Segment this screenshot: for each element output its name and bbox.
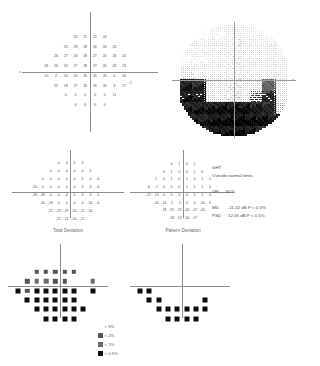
greyscale-dot — [257, 78, 258, 79]
greyscale-dot — [216, 85, 217, 86]
greyscale-dot — [220, 37, 221, 38]
greyscale-dot — [191, 64, 192, 65]
probability-cell — [167, 289, 170, 292]
greyscale-dot — [204, 74, 205, 75]
greyscale-dot — [214, 37, 215, 38]
value-cell: -3 — [80, 162, 83, 166]
value-cell: -3 — [88, 186, 91, 190]
legend-symbol-p1 — [98, 342, 103, 347]
greyscale-dot — [231, 97, 232, 98]
greyscale-dot — [267, 62, 268, 63]
greyscale-dot — [204, 60, 205, 61]
greyscale-dot — [208, 68, 209, 69]
probability-cell — [25, 279, 29, 283]
greyscale-dot — [228, 44, 229, 45]
value-cell: 0 — [171, 163, 173, 167]
greyscale-dot — [232, 52, 233, 53]
probability-cell — [71, 297, 76, 302]
greyscale-dot — [181, 68, 182, 69]
greyscale-dot — [195, 50, 196, 51]
greyscale-dot — [228, 68, 229, 69]
greyscale-dot — [214, 58, 215, 59]
greyscale-dot — [206, 91, 207, 92]
greyscale-dot — [269, 46, 270, 47]
greyscale-dot — [280, 95, 281, 96]
greyscale-dot — [206, 74, 207, 75]
greyscale-dot — [204, 68, 205, 69]
greyscale-dot — [229, 87, 230, 88]
value-cell: 0 — [194, 202, 196, 206]
greyscale-dot — [237, 27, 238, 28]
probability-cell — [167, 271, 170, 274]
greyscale-dot — [249, 58, 250, 59]
greyscale-dot — [232, 62, 233, 63]
greyscale-dot — [265, 60, 266, 61]
greyscale-dot — [274, 74, 275, 75]
greyscale-dot — [243, 62, 244, 63]
greyscale-dot — [212, 83, 213, 84]
greyscale-dot — [189, 72, 190, 73]
probability-cell — [203, 297, 208, 302]
greyscale-dot — [247, 31, 248, 32]
probability-cell — [185, 298, 188, 301]
greyscale-dot — [208, 62, 209, 63]
value-cell: 0 — [186, 194, 188, 198]
greyscale-dot — [228, 97, 229, 98]
greyscale-dot — [189, 64, 190, 65]
greyscale-dot — [199, 46, 200, 47]
greyscale-dot — [228, 81, 229, 82]
value-cell: 24 — [122, 56, 126, 60]
greyscale-dot — [185, 56, 186, 57]
probability-cell — [204, 271, 207, 274]
value-cell: -21 — [64, 218, 69, 222]
greyscale-dot — [206, 68, 207, 69]
greyscale-dot — [274, 68, 275, 69]
greyscale-dot — [253, 39, 254, 40]
probability-cell — [34, 297, 39, 302]
greyscale-dot — [220, 76, 221, 77]
greyscale-dot — [185, 50, 186, 51]
probability-cell — [203, 307, 208, 312]
greyscale-dot — [208, 74, 209, 75]
greyscale-dot — [272, 120, 274, 122]
greyscale-dot — [220, 74, 221, 75]
greyscale-dot — [273, 72, 274, 73]
probability-cell — [175, 316, 180, 321]
greyscale-dot — [187, 76, 188, 77]
greyscale-dot — [196, 60, 197, 61]
greyscale-dot — [228, 95, 229, 96]
greyscale-dot — [228, 91, 229, 92]
greyscale-dot — [236, 70, 237, 71]
value-cell: -18 — [169, 217, 174, 221]
greyscale-dot — [269, 62, 270, 63]
greyscale-dot — [230, 74, 231, 75]
greyscale-dot — [263, 50, 264, 51]
greyscale-dot — [273, 68, 274, 69]
greyscale-dot — [232, 56, 233, 57]
greyscale-dot — [253, 27, 254, 28]
greyscale-dot — [280, 58, 281, 59]
greyscale-dot — [239, 97, 240, 98]
probability-cell — [194, 271, 197, 274]
greyscale-dot — [274, 50, 275, 51]
greyscale-dot — [265, 43, 266, 44]
greyscale-dot — [200, 41, 201, 42]
value-cell: -4 — [96, 178, 99, 182]
greyscale-dot — [194, 46, 195, 47]
greyscale-dot — [222, 27, 223, 28]
greyscale-dot — [284, 81, 285, 82]
greyscale-dot — [259, 72, 260, 73]
greyscale-dot — [210, 64, 211, 65]
greyscale-dot — [267, 44, 268, 45]
greyscale-dot — [249, 33, 250, 34]
greyscale-dot — [210, 52, 211, 53]
greyscale-dot — [218, 91, 219, 92]
greyscale-dot — [210, 72, 211, 73]
greyscale-dot — [185, 58, 186, 59]
greyscale-dot — [206, 87, 207, 88]
greyscale-dot — [276, 95, 277, 96]
greyscale-dot — [224, 25, 225, 26]
value-cell: 1 — [194, 186, 196, 190]
value-cell: 18 — [44, 65, 48, 69]
greyscale-dot — [267, 58, 268, 59]
